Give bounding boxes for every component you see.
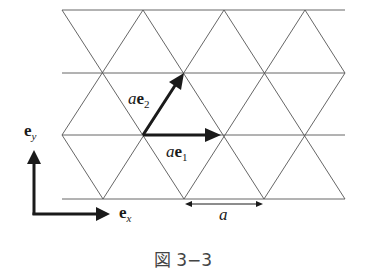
triangular-lattice-diagram: ae2 ae1 ey ex a 図 3−3 [0,0,365,272]
lattice-constant-label: a [219,205,228,224]
axis-ey-arrow [27,150,41,215]
axis-ey-label: ey [24,121,37,142]
axis-ex-arrow [33,207,111,221]
axis-ex-label: ex [119,203,132,224]
vector-ae1-arrow [143,128,221,142]
lattice-falling-diagonals [62,10,345,199]
vector-ae1-label: ae1 [166,142,188,163]
vector-ae2-label: ae2 [128,89,150,110]
figure-caption: 図 3−3 [154,250,212,270]
